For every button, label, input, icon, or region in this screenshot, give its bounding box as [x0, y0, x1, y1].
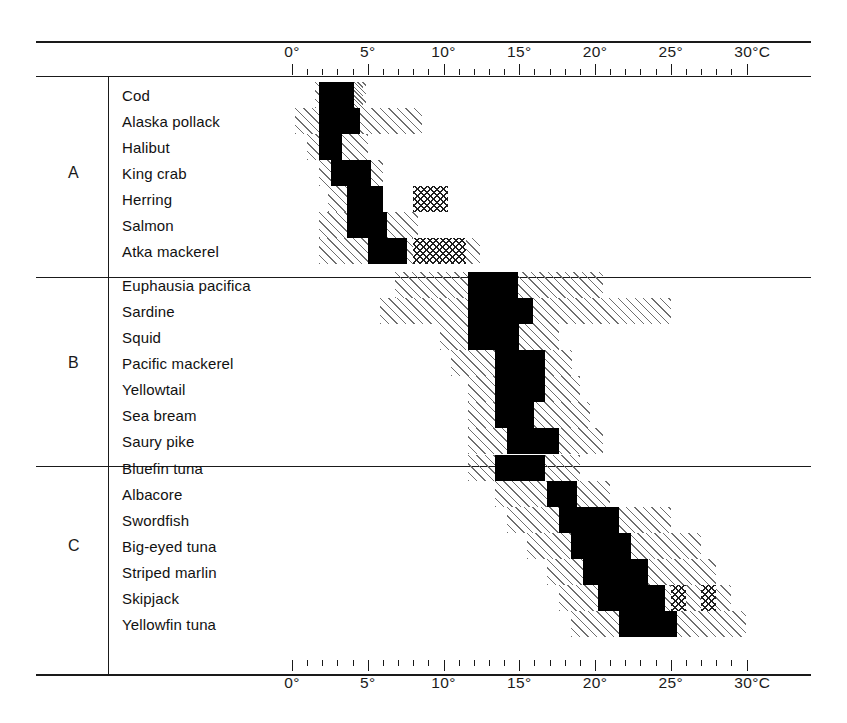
frame-rule [36, 674, 811, 676]
species-band-track [108, 238, 811, 264]
species-row: Yellowtail [108, 376, 811, 402]
axis-tick-minor [686, 660, 687, 666]
band-solid [368, 238, 407, 264]
species-row: Albacore [108, 481, 811, 507]
axis-tick-minor [701, 69, 702, 75]
axis-tick-label: 15° [507, 43, 531, 61]
axis-tick-minor [686, 69, 687, 75]
band-solid [495, 376, 545, 402]
axis-tick-minor [504, 660, 505, 666]
band-hatch [354, 82, 366, 108]
species-band-track [108, 585, 811, 611]
species-band-track [108, 298, 811, 324]
species-row: Squid [108, 324, 811, 350]
axis-tick-minor [307, 69, 308, 75]
band-solid [583, 559, 648, 585]
band-solid [319, 108, 360, 134]
species-row: Alaska pollack [108, 108, 811, 134]
band-solid [347, 186, 383, 212]
band-solid [598, 585, 665, 611]
axis-tick-minor [610, 69, 611, 75]
axis-tick-major [747, 660, 748, 671]
temperature-range-chart: 0°5°10°15°20°25°30°C0°5°10°15°20°25°30°C… [0, 0, 847, 723]
axis-tick-major [444, 660, 445, 671]
axis-tick-major [519, 64, 520, 75]
axis-tick-minor [625, 660, 626, 666]
axis-tick-label: 30°C [734, 43, 770, 61]
species-band-track [108, 533, 811, 559]
axis-tick-minor [731, 660, 732, 666]
species-band-track [108, 272, 811, 298]
axis-tick-label: 25° [659, 43, 683, 61]
axis-tick-label: 0° [284, 674, 299, 692]
axis-bottom: 0°5°10°15°20°25°30°C [0, 660, 847, 686]
axis-tick-major [595, 660, 596, 671]
species-band-track [108, 350, 811, 376]
axis-tick-minor [428, 69, 429, 75]
band-xhatch [671, 585, 686, 611]
axis-tick-minor [474, 660, 475, 666]
axis-tick-minor [459, 69, 460, 75]
axis-tick-minor [398, 660, 399, 666]
species-row: Atka mackerel [108, 238, 811, 264]
species-band-track [108, 611, 811, 637]
band-solid [319, 82, 354, 108]
species-row: Bluefin tuna [108, 455, 811, 481]
axis-tick-minor [504, 69, 505, 75]
axis-tick-minor [580, 660, 581, 666]
axis-tick-label: 10° [431, 43, 455, 61]
species-band-track [108, 507, 811, 533]
axis-tick-minor [459, 660, 460, 666]
axis-tick-minor [731, 69, 732, 75]
band-solid [495, 455, 545, 481]
axis-tick-major [747, 64, 748, 75]
axis-tick-major [595, 64, 596, 75]
axis-tick-label: 10° [431, 674, 455, 692]
axis-tick-minor [534, 660, 535, 666]
axis-tick-minor [413, 69, 414, 75]
axis-tick-minor [307, 660, 308, 666]
axis-tick-minor [656, 69, 657, 75]
species-row: Sardine [108, 298, 811, 324]
axis-tick-minor [383, 660, 384, 666]
band-solid [547, 481, 577, 507]
axis-tick-label: 30°C [734, 674, 770, 692]
axis-tick-minor [580, 69, 581, 75]
species-row: Yellowfin tuna [108, 611, 811, 637]
axis-tick-minor [656, 660, 657, 666]
band-solid [468, 272, 518, 298]
axis-tick-label: 20° [583, 43, 607, 61]
species-band-track [108, 160, 811, 186]
species-row: Sea bream [108, 402, 811, 428]
axis-tick-minor [322, 660, 323, 666]
axis-tick-minor [322, 69, 323, 75]
band-solid [619, 611, 677, 637]
species-band-track [108, 481, 811, 507]
axis-tick-minor [550, 660, 551, 666]
species-band-track [108, 428, 811, 454]
species-row: Salmon [108, 212, 811, 238]
axis-tick-minor [625, 69, 626, 75]
axis-tick-minor [610, 660, 611, 666]
axis-tick-minor [534, 69, 535, 75]
axis-tick-major [444, 64, 445, 75]
species-row: Swordfish [108, 507, 811, 533]
species-row: Herring [108, 186, 811, 212]
species-row: Striped marlin [108, 559, 811, 585]
axis-tick-major [368, 64, 369, 75]
axis-tick-minor [398, 69, 399, 75]
species-band-track [108, 324, 811, 350]
band-xhatch [413, 238, 466, 264]
axis-tick-minor [353, 660, 354, 666]
species-row: King crab [108, 160, 811, 186]
axis-tick-minor [640, 69, 641, 75]
axis-tick-minor [550, 69, 551, 75]
group-label-A: A [68, 164, 79, 182]
band-solid [319, 134, 342, 160]
axis-tick-major [292, 64, 293, 75]
axis-tick-minor [353, 69, 354, 75]
species-band-track [108, 82, 811, 108]
band-solid [468, 298, 533, 324]
axis-tick-label: 25° [659, 674, 683, 692]
axis-tick-label: 5° [360, 43, 375, 61]
